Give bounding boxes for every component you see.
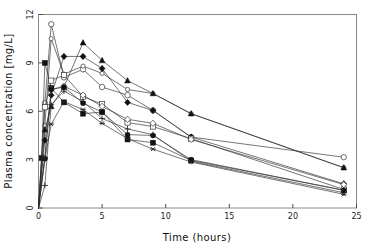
series-subject-8 [39, 88, 347, 208]
plus-marker [42, 182, 48, 188]
series-subject-4 [39, 53, 347, 208]
data-series-group [39, 21, 347, 208]
open-circle-marker [341, 155, 346, 160]
open-square-marker [42, 105, 47, 110]
y-tick-label: 3 [26, 157, 35, 162]
x-tick-label: 0 [36, 212, 41, 221]
y-tick-label: 12 [26, 9, 35, 19]
filled-diamond-marker [125, 99, 131, 105]
series-subject-2 [39, 37, 346, 208]
filled-diamond-marker [99, 65, 105, 71]
y-tick-label: 6 [26, 109, 35, 114]
series-subject-9 [39, 85, 347, 208]
plot-frame [39, 15, 357, 209]
x-tick-label: 5 [100, 212, 105, 221]
filled-square-marker [81, 111, 86, 116]
y-tick-label: 0 [26, 205, 35, 210]
plus-marker [125, 126, 131, 132]
open-circle-small-marker [125, 87, 129, 91]
x-axis-title: Time (hours) [162, 232, 231, 243]
y-tick-label: 9 [26, 60, 35, 65]
filled-circle-marker [100, 110, 105, 115]
filled-triangle-marker [125, 78, 131, 83]
filled-circle-marker [341, 188, 346, 193]
x-tick-label: 20 [288, 212, 298, 221]
filled-square-marker [150, 140, 155, 145]
cropped-title [0, 0, 372, 9]
series-line [39, 102, 344, 208]
series-subject-5 [39, 60, 347, 208]
filled-circle-marker [49, 87, 54, 92]
open-square-marker [49, 78, 54, 83]
open-star-marker [99, 121, 105, 125]
open-circle-marker [125, 92, 130, 97]
filled-circle-marker [125, 132, 130, 137]
y-axis-title: Plasma concentration [mg/L] [3, 33, 14, 188]
open-circle-small-marker [81, 64, 85, 68]
filled-diamond-marker [80, 53, 86, 59]
filled-diamond-marker [61, 53, 67, 59]
open-circle-small-marker [49, 37, 53, 41]
x-tick-label: 15 [224, 212, 234, 221]
x-tick-label: 10 [161, 212, 171, 221]
chart-root: 0510152025036912 Time (hours) Plasma con… [0, 0, 372, 248]
x-tick-label: 25 [351, 212, 361, 221]
series-line [39, 56, 344, 208]
filled-triangle-marker [80, 40, 86, 45]
plasma-concentration-chart: 0510152025036912 Time (hours) Plasma con… [0, 0, 372, 248]
filled-circle-marker [61, 85, 66, 90]
filled-diamond-marker [150, 107, 156, 113]
open-star-marker [150, 147, 156, 151]
filled-circle-marker [81, 101, 86, 106]
open-circle-marker [99, 84, 104, 89]
open-square-marker [61, 72, 66, 77]
open-circle-marker [49, 21, 54, 26]
filled-circle-marker [150, 133, 155, 138]
filled-square-marker [42, 60, 47, 65]
